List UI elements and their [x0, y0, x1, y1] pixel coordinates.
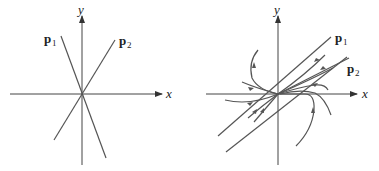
- right-p1-label: p 1: [335, 30, 348, 47]
- right-eigenline-p2-lower: [226, 57, 347, 152]
- flow-arrow-icon: [248, 87, 254, 91]
- trajectory: [278, 94, 314, 146]
- left-eigenline-p1: [61, 36, 106, 158]
- right-x-axis-label: x: [361, 86, 368, 101]
- right-p2-label: p 2: [347, 61, 360, 78]
- svg-text:1: 1: [343, 37, 348, 47]
- flow-arrow-icon: [320, 66, 326, 70]
- left-x-axis-label: x: [165, 86, 172, 101]
- svg-text:2: 2: [127, 40, 132, 50]
- flow-arrow-icon: [260, 108, 264, 113]
- left-y-axis-label: y: [76, 2, 84, 17]
- svg-text:1: 1: [52, 38, 57, 48]
- svg-text:p: p: [119, 33, 126, 48]
- right-y-axis-label: y: [272, 2, 280, 17]
- left-panel: x y p 1 p 2: [10, 2, 172, 165]
- left-p1-label: p 1: [44, 31, 57, 48]
- left-eigenline-p2: [54, 40, 115, 140]
- left-p2-label: p 2: [119, 33, 132, 50]
- svg-text:p: p: [347, 61, 354, 76]
- trajectory: [278, 55, 325, 94]
- svg-text:2: 2: [355, 68, 360, 78]
- right-eigenline-p2: [278, 58, 349, 94]
- svg-text:p: p: [44, 31, 51, 46]
- phase-portrait-figure: x y p 1 p 2 x y: [0, 0, 379, 171]
- svg-text:p: p: [335, 30, 342, 45]
- right-eigenline-p1: [218, 37, 331, 136]
- flow-arrow-icon: [252, 62, 256, 68]
- right-panel: x y p 1 p: [206, 2, 368, 165]
